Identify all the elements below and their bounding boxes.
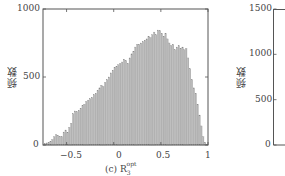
- histogram-bar: [99, 88, 100, 145]
- chart-caption: (c) R3opt: [105, 162, 140, 176]
- left-ytick-0: 0: [33, 139, 39, 149]
- histogram-bar: [57, 135, 58, 145]
- histogram-bar: [63, 132, 64, 145]
- histogram-bar: [172, 44, 173, 145]
- histogram-bar: [139, 44, 140, 145]
- histogram-bar: [65, 130, 66, 145]
- histogram-bar: [93, 95, 94, 145]
- histogram-bar: [97, 91, 98, 145]
- histogram-bar: [122, 62, 123, 145]
- histogram-bar: [78, 110, 79, 145]
- histogram-bar: [52, 140, 53, 145]
- histogram-bar: [142, 42, 143, 145]
- histogram-bar: [174, 50, 175, 145]
- histogram-bar: [155, 35, 156, 145]
- histogram-bar: [178, 46, 179, 145]
- histogram-bar: [201, 126, 202, 145]
- histogram-bar: [69, 127, 70, 145]
- histogram-bar: [123, 59, 124, 145]
- histogram-bar: [152, 35, 153, 145]
- histogram-bar: [82, 106, 83, 145]
- left-ytick-1000: 1000: [17, 3, 40, 13]
- histogram-bar: [154, 32, 155, 145]
- histogram-bar: [157, 30, 158, 145]
- histogram-bar: [54, 137, 55, 145]
- histogram-bar: [163, 36, 164, 145]
- histogram-bar: [106, 80, 107, 145]
- histogram-bar: [167, 39, 168, 145]
- histogram-bar: [127, 63, 128, 145]
- left-ylabel: 频数: [5, 66, 20, 88]
- histogram-bar: [61, 137, 62, 145]
- histogram-bar: [73, 114, 74, 145]
- histogram-chart: [0, 0, 285, 176]
- histogram-bar: [118, 65, 119, 145]
- histogram-bar: [197, 104, 198, 145]
- histogram-bar: [84, 104, 85, 145]
- histogram-bar: [150, 38, 151, 145]
- caption-prefix: (c) R: [105, 164, 127, 174]
- histogram-bar: [137, 44, 138, 145]
- histogram-bar: [76, 112, 77, 145]
- histogram-bar: [91, 97, 92, 145]
- histogram-bar: [80, 108, 81, 145]
- histogram-bar: [165, 33, 166, 145]
- histogram-bar: [195, 93, 196, 145]
- histogram-bar: [184, 50, 185, 145]
- histogram-bar: [129, 58, 130, 145]
- histogram-bar: [114, 67, 115, 145]
- histogram-bar: [110, 73, 111, 145]
- histogram-bar: [112, 70, 113, 145]
- histogram-bar: [193, 88, 194, 145]
- histogram-bar: [199, 115, 200, 145]
- histogram-bar: [203, 137, 204, 145]
- histogram-bar: [188, 58, 189, 145]
- histogram-bar: [189, 69, 190, 145]
- right-ylabel: 频数: [234, 66, 249, 88]
- histogram-bar: [144, 40, 145, 145]
- right-ytick-500: 500: [255, 94, 272, 104]
- histogram-bar: [171, 46, 172, 145]
- right-ytick-1500: 1500: [249, 3, 272, 13]
- histogram-bar: [95, 93, 96, 145]
- histogram-bar: [71, 123, 72, 145]
- histogram-bar: [116, 67, 117, 145]
- histogram-bar: [56, 135, 57, 145]
- histogram-bar: [86, 101, 87, 145]
- histogram-bar: [59, 136, 60, 145]
- histogram-bar: [133, 51, 134, 145]
- left-xtick-0: 0: [116, 150, 122, 160]
- histogram-bar: [161, 33, 162, 145]
- histogram-bar: [140, 43, 141, 145]
- histogram-bar: [103, 87, 104, 145]
- histogram-bar: [67, 133, 68, 145]
- left-xtick-neg05: −0.5: [60, 150, 82, 160]
- left-ytick-500: 500: [23, 71, 40, 81]
- histogram-bar: [159, 31, 160, 145]
- histogram-bar: [180, 48, 181, 145]
- caption-sub: 3: [127, 169, 131, 176]
- histogram-bar: [186, 48, 187, 145]
- histogram-bar: [148, 36, 149, 145]
- histogram-bar: [88, 100, 89, 145]
- histogram-bar: [105, 82, 106, 145]
- left-histogram-bars: [44, 30, 207, 145]
- histogram-bar: [120, 63, 121, 145]
- histogram-bar: [191, 80, 192, 145]
- histogram-bar: [125, 61, 126, 145]
- left-xtick-05: 0.5: [156, 150, 170, 160]
- histogram-bar: [182, 47, 183, 145]
- histogram-bar: [146, 39, 147, 145]
- right-ytick-1000: 1000: [249, 48, 272, 58]
- histogram-bar: [74, 111, 75, 145]
- right-ytick-0: 0: [265, 139, 271, 149]
- histogram-bar: [50, 142, 51, 145]
- histogram-bar: [131, 54, 132, 145]
- caption-sup: opt: [127, 160, 137, 167]
- histogram-bar: [176, 47, 177, 145]
- histogram-bar: [169, 43, 170, 145]
- histogram-bar: [108, 77, 109, 145]
- histogram-bar: [135, 47, 136, 145]
- left-xtick-1: 1: [205, 150, 211, 160]
- histogram-bar: [101, 85, 102, 145]
